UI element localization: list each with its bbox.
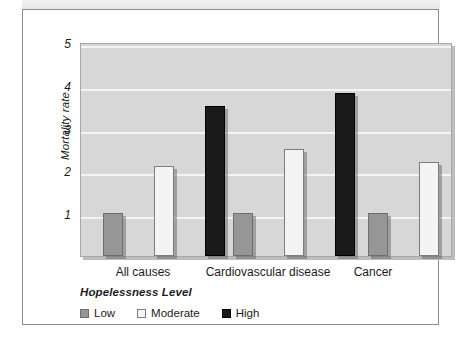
bar-face: [368, 213, 388, 256]
high-swatch-icon: [222, 309, 231, 318]
bar-face: [284, 149, 304, 256]
low-swatch-icon: [80, 309, 89, 318]
bar-face: [419, 162, 439, 256]
legend-item-high[interactable]: High: [222, 307, 260, 319]
top-header-strip: [22, 0, 440, 9]
moderate-swatch-icon: [137, 309, 146, 318]
legend-label-high: High: [236, 307, 260, 319]
bar-low-1: [233, 213, 253, 256]
bar-face: [205, 106, 225, 256]
bar-face: [154, 166, 174, 256]
legend-item-low[interactable]: Low: [80, 307, 115, 319]
x-category-label-2: Cancer: [308, 265, 438, 279]
bar-moderate-2: [419, 162, 439, 256]
gridline-4: [81, 89, 451, 91]
gridline-5: [81, 46, 451, 48]
bar-face: [103, 213, 123, 256]
legend-label-moderate: Moderate: [151, 307, 200, 319]
legend-label-low: Low: [94, 307, 115, 319]
bar-high-0: [205, 106, 225, 256]
legend-title: Hopelessness Level: [80, 286, 192, 298]
bar-moderate-0: [154, 166, 174, 256]
gridline-1: [81, 217, 451, 219]
bar-high-1: [335, 93, 355, 256]
y-tick-label-5: 5: [49, 37, 71, 51]
figure-page: 5 4 3 2 1 Mortality rate All causes Card…: [0, 0, 462, 340]
bar-face: [335, 93, 355, 256]
y-axis-title: Mortality rate: [59, 66, 71, 186]
y-tick-label-1: 1: [49, 208, 71, 222]
bar-moderate-1: [284, 149, 304, 256]
bar-low-0: [103, 213, 123, 256]
gridline-2: [81, 174, 451, 176]
legend: Low Moderate High: [80, 307, 281, 319]
plot-area: [80, 43, 452, 257]
figure-frame: 5 4 3 2 1 Mortality rate All causes Card…: [22, 9, 439, 325]
bar-low-2: [368, 213, 388, 256]
legend-item-moderate[interactable]: Moderate: [137, 307, 200, 319]
bar-face: [233, 213, 253, 256]
gridline-3: [81, 132, 451, 134]
